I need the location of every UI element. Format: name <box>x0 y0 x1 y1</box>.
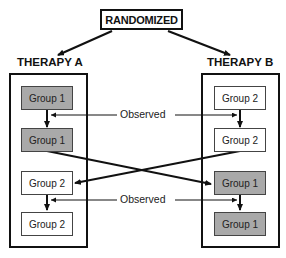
therapy-b-label: THERAPY B <box>207 56 273 68</box>
arrow-to-therapy-b <box>168 31 230 55</box>
therapy-b-group-4: Group 1 <box>214 212 266 236</box>
therapy-a-label: THERAPY A <box>17 56 83 68</box>
observed-label-top: Observed <box>117 108 169 120</box>
therapy-b-group-3: Group 1 <box>214 171 266 195</box>
arrow-to-therapy-a <box>58 31 112 55</box>
therapy-a-group-2: Group 1 <box>21 128 73 152</box>
therapy-a-group-4: Group 2 <box>21 212 73 236</box>
therapy-b-group-1: Group 2 <box>214 86 266 110</box>
therapy-a-group-1: Group 1 <box>21 86 73 110</box>
randomized-box: RANDOMIZED <box>100 9 183 30</box>
observed-label-bottom: Observed <box>117 193 169 205</box>
therapy-b-group-2: Group 2 <box>214 128 266 152</box>
therapy-a-group-3: Group 2 <box>21 171 73 195</box>
